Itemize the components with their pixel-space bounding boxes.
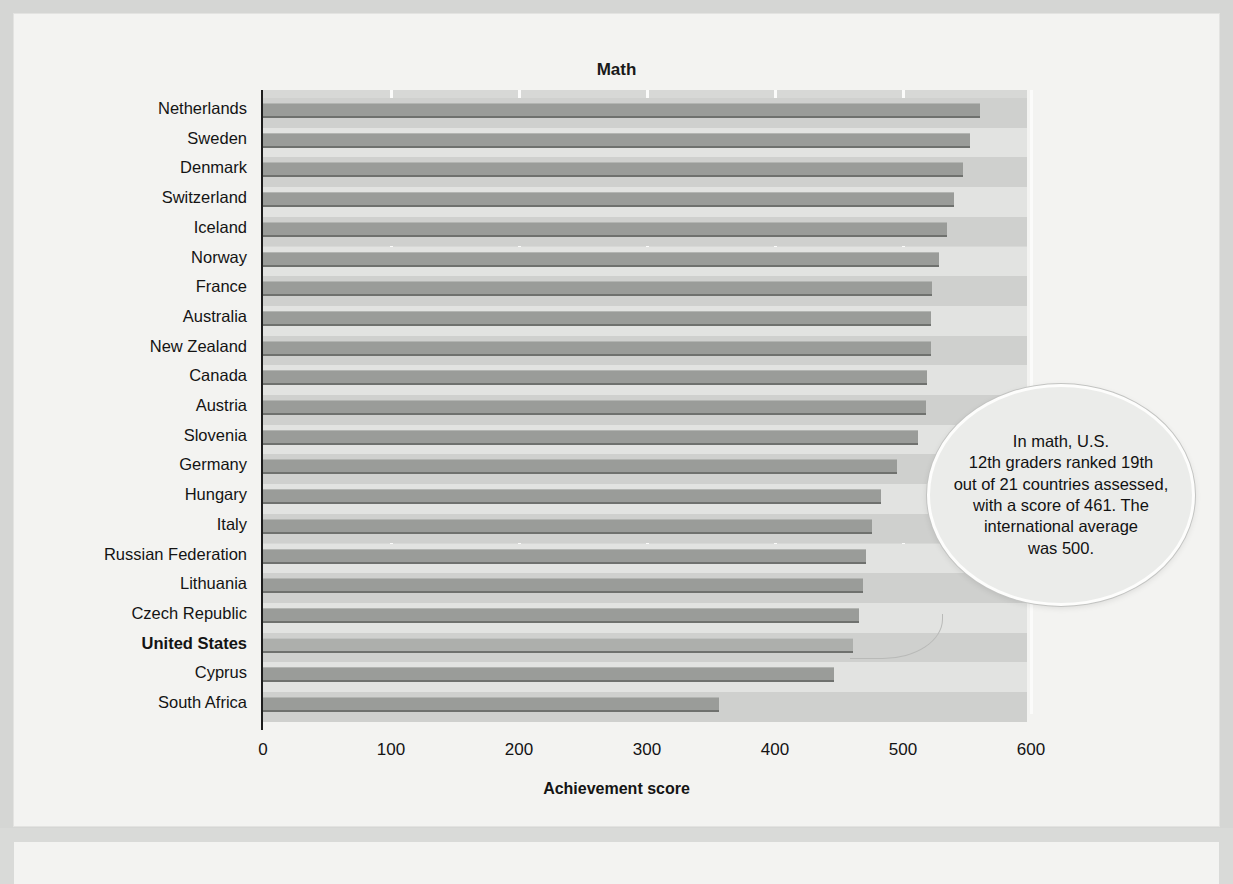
callout-line: was 500.: [1028, 539, 1094, 557]
y-tick-label: South Africa: [158, 694, 247, 710]
x-axis-label: Achievement score: [14, 780, 1219, 798]
x-tick-label-200: 200: [505, 740, 533, 760]
bar-czech-republic: [263, 608, 859, 623]
y-tick-label: Germany: [179, 456, 247, 472]
y-tick-label: Austria: [196, 397, 247, 413]
bar-south-africa: [263, 697, 719, 712]
y-tick-label: Czech Republic: [131, 605, 247, 621]
bar-cyprus: [263, 667, 834, 682]
bar-slovenia: [263, 430, 918, 445]
y-tick-label: Canada: [189, 367, 247, 383]
y-tick-label: United States: [142, 635, 247, 651]
callout-bubble: In math, U.S.12th graders ranked 19thout…: [927, 384, 1195, 606]
bar-united-states: [263, 638, 853, 653]
bar-lithuania: [263, 578, 863, 593]
y-tick-label: Lithuania: [180, 575, 247, 591]
x-tick-label-500: 500: [889, 740, 917, 760]
y-tick-label: Hungary: [185, 486, 247, 502]
chart-card: Math NetherlandsSwedenDenmarkSwitzerland…: [14, 14, 1219, 826]
y-tick-label: Norway: [191, 249, 247, 265]
bar-sweden: [263, 133, 970, 148]
y-tick-label: Italy: [217, 516, 247, 532]
callout-line: 12th graders ranked 19th: [969, 453, 1153, 471]
y-tick-label: Sweden: [187, 130, 247, 146]
bar-canada: [263, 370, 927, 385]
y-tick-label: Cyprus: [195, 664, 247, 680]
x-tick-label-0: 0: [258, 740, 267, 760]
bar-netherlands: [263, 103, 980, 118]
x-tick-label-100: 100: [377, 740, 405, 760]
x-tick-label-600: 600: [1017, 740, 1045, 760]
y-tick-label: Netherlands: [158, 100, 247, 116]
chart-title: Math: [14, 60, 1219, 80]
callout-text: In math, U.S.12th graders ranked 19thout…: [947, 431, 1175, 560]
bar-new-zealand: [263, 341, 931, 356]
y-tick-label: Iceland: [194, 219, 247, 235]
bar-france: [263, 281, 932, 296]
y-tick-label: France: [196, 278, 247, 294]
page-footer-panel: [14, 842, 1219, 884]
bar-italy: [263, 519, 872, 534]
bar-australia: [263, 311, 931, 326]
y-tick-label: New Zealand: [150, 338, 247, 354]
bar-austria: [263, 400, 926, 415]
bar-iceland: [263, 222, 947, 237]
bar-germany: [263, 459, 897, 474]
x-axis-ticks: 0100200300400500600: [14, 740, 1219, 770]
bar-denmark: [263, 162, 963, 177]
x-tick-label-400: 400: [761, 740, 789, 760]
bar-norway: [263, 252, 939, 267]
callout-line: international average: [984, 517, 1138, 535]
callout-line: In math, U.S.: [1013, 432, 1109, 450]
x-tick-label-300: 300: [633, 740, 661, 760]
y-axis-labels: NetherlandsSwedenDenmarkSwitzerlandIcela…: [14, 90, 255, 714]
callout-line: out of 21 countries assessed,: [954, 475, 1169, 493]
y-tick-label: Denmark: [180, 159, 247, 175]
bar-hungary: [263, 489, 881, 504]
bar-russian-federation: [263, 549, 866, 564]
y-tick-label: Russian Federation: [104, 546, 247, 562]
page-background: Math NetherlandsSwedenDenmarkSwitzerland…: [0, 0, 1233, 884]
y-tick-label: Australia: [183, 308, 247, 324]
plot-area: [263, 90, 1027, 714]
y-tick-label: Slovenia: [184, 427, 247, 443]
bar-switzerland: [263, 192, 954, 207]
y-tick-label: Switzerland: [162, 189, 247, 205]
callout-line: with a score of 461. The: [973, 496, 1149, 514]
